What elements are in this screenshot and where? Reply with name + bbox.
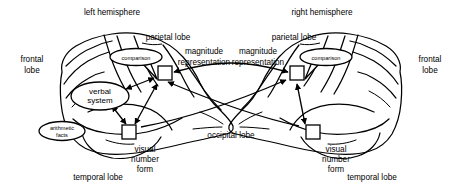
- frontal-lobe-left-label-line2: lobe: [24, 66, 40, 75]
- visual-number-form-left-label-line1: visual: [135, 145, 156, 154]
- magnitude-representation-right-label-line1: magnitude: [239, 47, 278, 56]
- magnitude-representation-left-label-line2: representation: [178, 58, 231, 67]
- visual-number-form-left-label-line2: number: [131, 155, 159, 164]
- frontal-lobe-right-label-line2: lobe: [422, 66, 438, 75]
- parietal-lobe-right-label: parietal lobe: [272, 33, 317, 42]
- visual-number-form-right-box[interactable]: [306, 125, 320, 139]
- left-hemisphere-title: left hemisphere: [84, 8, 140, 17]
- brain-diagram: comparison verbal system arithmetic fact…: [0, 0, 462, 189]
- visual-number-form-right-label-line2: number: [322, 155, 350, 164]
- visual-number-form-right-label-line1: visual: [326, 145, 347, 154]
- arithmetic-facts-label-line1: arithmetic: [50, 125, 74, 131]
- right-hemisphere-title: right hemisphere: [292, 8, 353, 17]
- comparison-right-label: comparison: [312, 55, 341, 61]
- module-verbal-system[interactable]: verbal system: [71, 82, 129, 110]
- brain-diagram-svg: comparison verbal system arithmetic fact…: [0, 0, 462, 189]
- magnitude-representation-left-label-line1: magnitude: [185, 47, 224, 56]
- comparison-left-label: comparison: [122, 55, 151, 61]
- arithmetic-facts-label-line2: facts: [56, 132, 68, 138]
- parietal-lobe-left-label: parietal lobe: [146, 33, 191, 42]
- temporal-lobe-left-label: temporal lobe: [73, 173, 123, 182]
- visual-number-form-right-label-line3: form: [328, 165, 345, 174]
- verbal-system-label-line1: verbal: [89, 87, 111, 96]
- module-arithmetic-facts[interactable]: arithmetic facts: [39, 122, 85, 141]
- visual-number-form-left-box[interactable]: [122, 125, 136, 139]
- magnitude-representation-right-box[interactable]: [290, 66, 304, 80]
- verbal-system-label-line2: system: [87, 96, 113, 105]
- occipital-lobe-label: occipital lobe: [207, 131, 255, 140]
- magnitude-representation-left-box[interactable]: [158, 66, 172, 80]
- visual-number-form-left-label-line3: form: [137, 165, 154, 174]
- frontal-lobe-right-label-line1: frontal: [419, 55, 442, 64]
- frontal-lobe-left-label-line1: frontal: [21, 55, 44, 64]
- magnitude-representation-right-label-line2: representation: [232, 58, 285, 67]
- temporal-lobe-right-label: temporal lobe: [347, 173, 397, 182]
